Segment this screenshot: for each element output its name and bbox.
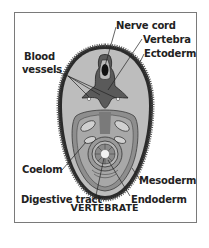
blood-vessel-right [116, 97, 119, 100]
label-mesoderm: Mesoderm [139, 175, 196, 186]
figure-caption: VERTEBRATE [0, 202, 209, 213]
label-vertebra: Vertebra [143, 34, 191, 45]
blood-vessel-left [87, 97, 90, 100]
label-blood-vessels-line2: vessels [22, 64, 62, 75]
label-blood-vessels-line1: Blood [24, 51, 55, 62]
label-nerve-cord: Nerve cord [116, 20, 176, 31]
label-ectoderm: Ectoderm [144, 48, 196, 59]
label-coelom: Coelom [22, 164, 63, 175]
gut-lumen [101, 150, 110, 159]
